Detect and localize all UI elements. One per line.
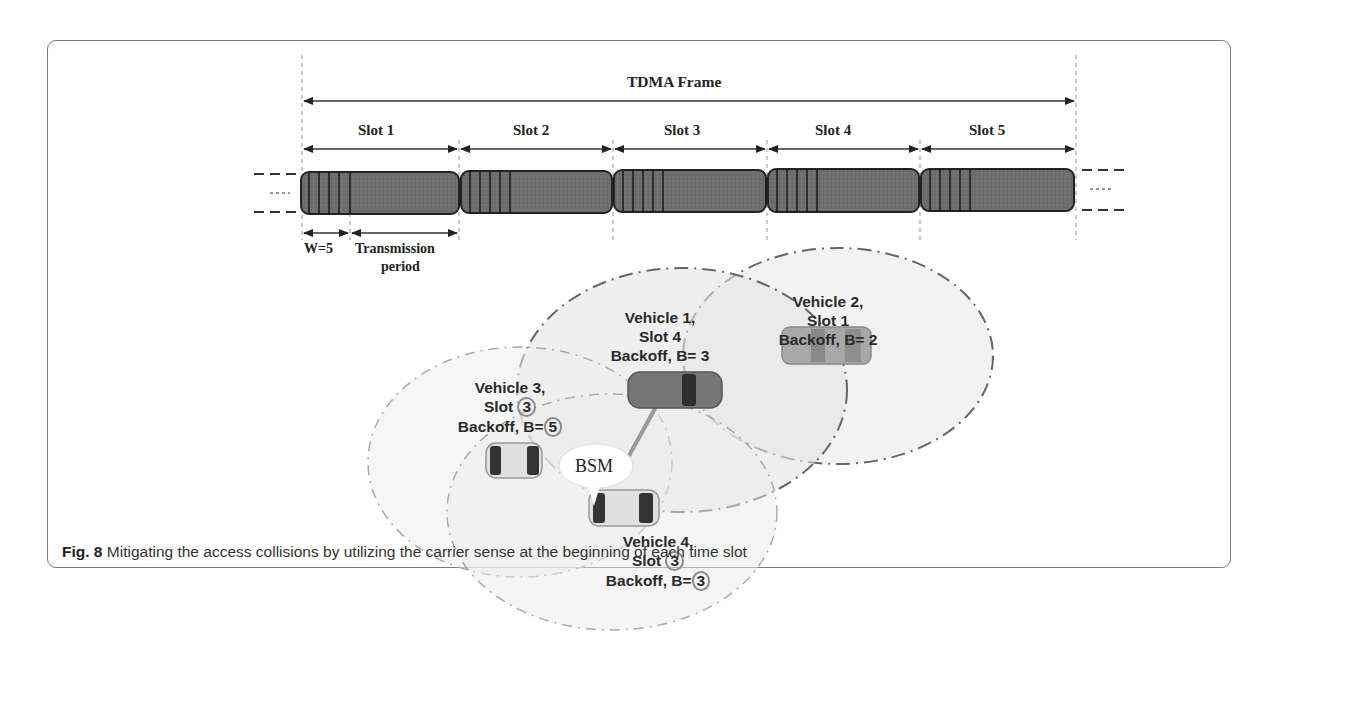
- window-label: W=5: [304, 241, 333, 257]
- vehicle-1-label: Vehicle 1, Slot 4 Backoff, B= 3: [598, 308, 722, 365]
- slot-blocks: [301, 169, 1074, 214]
- figure-caption: Fig. 8 Mitigating the access collisions …: [62, 543, 747, 561]
- slot-highlight-circle: 3: [517, 397, 536, 417]
- bsm-label: BSM: [575, 456, 613, 477]
- vehicle-4-car: [589, 490, 659, 526]
- slot-block-3: [614, 170, 766, 212]
- transmission-label-line2: period: [381, 259, 420, 275]
- slot-block-4: [768, 169, 919, 212]
- transmission-label: Transmission: [355, 241, 435, 257]
- vehicle-3-car: [486, 443, 542, 478]
- tdma-frame-title: TDMA Frame: [627, 73, 721, 91]
- figure-number: Fig. 8: [62, 543, 102, 560]
- slot-label-4: Slot 4: [815, 122, 851, 139]
- slot-label-3: Slot 3: [664, 122, 700, 139]
- slot-label-1: Slot 1: [358, 122, 394, 139]
- caption-text: Mitigating the access collisions by util…: [102, 543, 746, 560]
- slot-block-1: [301, 172, 459, 214]
- backoff-highlight-circle: 5: [544, 417, 563, 437]
- vehicle-4-label: Vehicle 4, Slot 3 Backoff, B=3: [596, 532, 720, 591]
- vehicle-3-label: Vehicle 3, Slot 3 Backoff, B=5: [450, 378, 570, 437]
- vehicle-1-car: [628, 372, 722, 408]
- vehicle-2-label: Vehicle 2, Slot 1 Backoff, B= 2: [778, 292, 878, 349]
- slot-block-5: [921, 169, 1074, 211]
- backoff-highlight-circle: 3: [692, 571, 711, 591]
- slot-label-2: Slot 2: [513, 122, 549, 139]
- slot-block-2: [461, 171, 612, 213]
- slot-label-5: Slot 5: [969, 122, 1005, 139]
